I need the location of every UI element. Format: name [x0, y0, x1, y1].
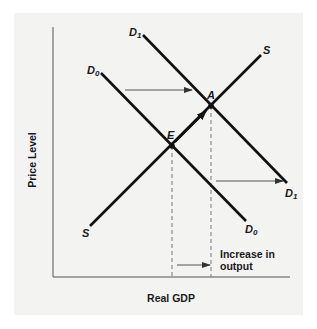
label-d0-bottom: D0 — [245, 223, 258, 237]
label-d0-top: D0 — [87, 64, 100, 78]
point-e — [169, 143, 175, 149]
annotation-increase-in-output-line1: Increase in — [220, 248, 275, 260]
label-point-e: E — [167, 129, 175, 141]
label-d1-top: D1 — [129, 26, 142, 40]
point-a — [208, 103, 214, 109]
label-d1-bottom: D1 — [285, 187, 298, 201]
label-s-top: S — [263, 44, 271, 56]
label-s-bottom: S — [82, 227, 90, 239]
annotation-increase-in-output-line2: output — [220, 260, 253, 272]
movement-arrow-e-to-a — [175, 111, 206, 142]
demand-curve-d1 — [143, 35, 287, 183]
y-axis-label: Price Level — [26, 132, 38, 188]
label-point-a: A — [206, 89, 215, 101]
x-axis-label: Real GDP — [147, 292, 195, 304]
diagram-canvas: D1 D0 S S D1 D0 E A Increase in output R… — [0, 0, 317, 329]
